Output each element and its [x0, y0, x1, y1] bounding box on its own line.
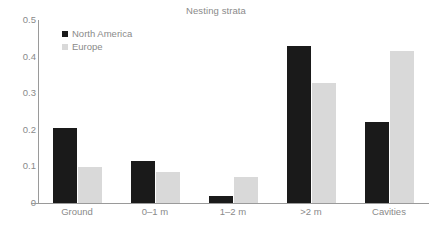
x-tick-label: 1–2 m — [220, 206, 246, 218]
x-tick-label: >2 m — [300, 206, 321, 218]
y-tick-label: 0.2 — [4, 125, 36, 135]
x-tick-label: Cavities — [372, 206, 406, 218]
y-tick-label: 0.3 — [4, 88, 36, 98]
bar-0-1-m-north-america[interactable] — [131, 161, 155, 203]
bar-cavities-north-america[interactable] — [365, 122, 389, 203]
bar-2-m-north-america[interactable] — [287, 46, 311, 203]
bar-ground-europe[interactable] — [78, 167, 102, 203]
bar-cavities-europe[interactable] — [390, 51, 414, 203]
x-tick-label: 0–1 m — [142, 206, 168, 218]
x-axis-tick-labels: Ground0–1 m1–2 m>2 mCavities — [38, 206, 428, 226]
chart-title: Nesting strata — [0, 5, 432, 16]
y-tick-label: 0.1 — [4, 161, 36, 171]
bar-1-2-m-europe[interactable] — [234, 177, 258, 203]
bar-chart: Nesting strata 00.10.20.30.40.5 North Am… — [0, 0, 432, 229]
bar-ground-north-america[interactable] — [53, 128, 77, 203]
bar-2-m-europe[interactable] — [312, 83, 336, 203]
bar-1-2-m-north-america[interactable] — [209, 196, 233, 203]
x-axis-line — [31, 203, 429, 204]
bars-layer — [38, 20, 428, 203]
bar-0-1-m-europe[interactable] — [156, 172, 180, 203]
y-tick-label: 0.5 — [4, 15, 36, 25]
y-tick-label: 0.4 — [4, 52, 36, 62]
y-axis-tick-labels: 00.10.20.30.40.5 — [0, 0, 36, 229]
x-tick-label: Ground — [61, 206, 93, 218]
